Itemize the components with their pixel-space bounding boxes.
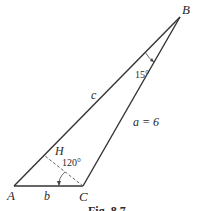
arrowhead-b bbox=[150, 58, 154, 62]
vertex-label-b: B bbox=[182, 2, 190, 17]
triangle-diagram: A B C H c b a = 6 15° 120° Fig. 8.7 bbox=[0, 0, 199, 211]
angle-label-b: 15° bbox=[135, 69, 149, 80]
vertex-label-a: A bbox=[6, 188, 15, 203]
side-label-a: a = 6 bbox=[133, 115, 159, 129]
arrowhead-c bbox=[57, 181, 61, 186]
figure-caption: Fig. 8.7 bbox=[88, 204, 126, 211]
foot-label-h: H bbox=[54, 144, 65, 158]
angle-label-c: 120° bbox=[62, 157, 81, 168]
vertex-label-c: C bbox=[79, 189, 88, 204]
side-label-b: b bbox=[44, 189, 50, 203]
side-label-c: c bbox=[91, 88, 97, 102]
